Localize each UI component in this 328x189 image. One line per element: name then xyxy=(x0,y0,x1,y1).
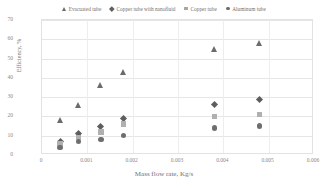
gridline xyxy=(42,59,312,60)
gridline xyxy=(178,20,179,153)
x-axis-tick-label: 0.002 xyxy=(112,157,152,163)
x-axis-title: Mass flow rate, Kg/s xyxy=(0,170,328,178)
legend-item-copper-tube: Copper tube xyxy=(184,6,216,12)
gridline xyxy=(42,136,312,137)
y-axis-tick-label: 40 xyxy=(0,74,13,80)
gridline xyxy=(223,20,224,153)
y-axis-tick-label: 10 xyxy=(0,132,13,138)
legend-label: Copper tube xyxy=(191,6,217,12)
circle-marker-icon xyxy=(226,7,230,11)
gridline xyxy=(42,97,312,98)
data-point xyxy=(97,82,103,88)
gridline xyxy=(42,78,312,79)
data-point xyxy=(120,69,126,75)
legend-item-copper-tube-with-nanofluid: Copper tube with nanofluid xyxy=(110,6,175,12)
legend-label: Copper tube with nanofluid xyxy=(117,6,176,12)
data-point xyxy=(121,121,126,126)
diamond-marker-icon xyxy=(110,6,115,11)
data-point xyxy=(76,139,81,144)
x-axis-tick-label: 0 xyxy=(21,157,61,163)
x-axis-tick-label: 0.005 xyxy=(248,157,288,163)
x-axis-tick-label: 0.004 xyxy=(202,157,242,163)
gridline xyxy=(42,116,312,117)
data-point xyxy=(257,123,262,128)
y-axis-tick-label: 0 xyxy=(0,151,13,157)
data-point xyxy=(257,112,262,117)
gridline xyxy=(269,20,270,153)
data-point xyxy=(75,102,81,108)
data-point xyxy=(256,40,262,46)
x-axis-tick-label: 0.003 xyxy=(157,157,197,163)
legend-label: Evacuated tube xyxy=(69,6,102,12)
data-point xyxy=(98,129,103,134)
y-axis-tick-label: 70 xyxy=(0,16,13,22)
square-marker-icon xyxy=(184,7,188,11)
data-point xyxy=(211,101,218,108)
triangle-marker-icon xyxy=(62,7,66,11)
y-axis-tick-label: 50 xyxy=(0,55,13,61)
gridline xyxy=(42,39,312,40)
gridline xyxy=(87,20,88,153)
legend-item-aluminum-tube: Aluminum tube xyxy=(226,6,266,12)
gridline xyxy=(133,20,134,153)
plot-area xyxy=(41,19,313,154)
y-axis-tick-label: 20 xyxy=(0,112,13,118)
legend-label: Aluminum tube xyxy=(232,6,266,12)
efficiency-vs-mass-flow-rate-chart: Evacuated tube Copper tube with nanoflui… xyxy=(0,0,328,189)
data-point xyxy=(212,125,217,130)
data-point xyxy=(98,137,103,142)
x-axis-tick-label: 0.006 xyxy=(293,157,328,163)
y-axis-tick-label: 30 xyxy=(0,93,13,99)
data-point xyxy=(57,117,63,123)
chart-legend: Evacuated tube Copper tube with nanoflui… xyxy=(0,2,328,15)
data-point xyxy=(212,114,217,119)
data-point xyxy=(211,46,217,52)
y-axis-tick-label: 60 xyxy=(0,35,13,41)
y-axis-title: Efficiency, % xyxy=(15,21,22,91)
data-point xyxy=(57,145,62,150)
x-axis-tick-label: 0.001 xyxy=(66,157,106,163)
data-point xyxy=(121,133,126,138)
legend-item-evacuated-tube: Evacuated tube xyxy=(62,6,101,12)
gridline xyxy=(42,20,312,21)
